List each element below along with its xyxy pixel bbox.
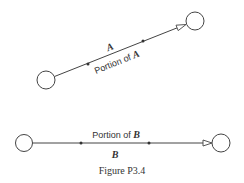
figure-caption: Figure P3.4	[99, 165, 146, 176]
end-node-a	[186, 12, 204, 30]
portion-a-end-dot	[142, 40, 145, 43]
portion-b-end-dot	[148, 142, 151, 145]
portion-b-label: Portion of B	[92, 129, 140, 140]
portion-a-start-dot	[87, 63, 90, 66]
figure-diagram: A Portion of A Portion of B B Figure P3.…	[0, 0, 244, 183]
vector-a-label: A	[104, 40, 116, 53]
vector-b: Portion of B B	[16, 129, 231, 160]
vector-a: A Portion of A	[37, 12, 204, 89]
vector-a-line	[55, 28, 179, 77]
arrowhead-b-icon	[203, 140, 212, 146]
start-node-b	[16, 135, 33, 152]
start-node-a	[37, 71, 55, 89]
end-node-b	[212, 134, 230, 152]
portion-b-start-dot	[80, 142, 83, 145]
arrowhead-a-icon	[176, 25, 186, 31]
vector-b-label: B	[111, 149, 119, 160]
